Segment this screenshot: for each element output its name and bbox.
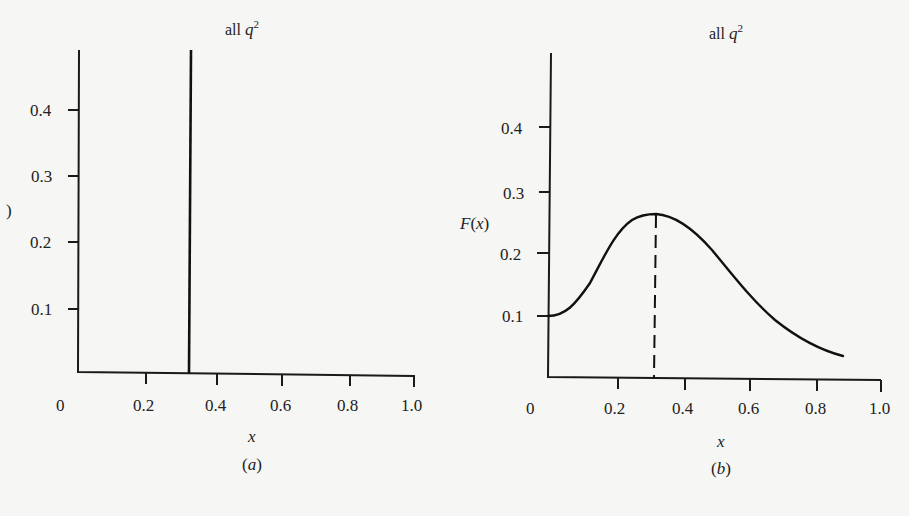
svg-text:0.1: 0.1 <box>31 300 52 319</box>
chart-b-curve <box>548 214 843 356</box>
chart-a-xlabel: x <box>247 427 256 446</box>
chart-b-x-tick-labels: 0 0.2 0.4 0.6 0.8 1.0 <box>526 399 890 418</box>
chart-panel-a: all q2 0.4 0.3 0.2 0.1 ) 0 0.2 0. <box>6 18 422 474</box>
svg-text:0.2: 0.2 <box>500 245 521 264</box>
chart-b-ylabel: F(x) <box>459 214 489 233</box>
svg-text:0: 0 <box>56 396 65 415</box>
chart-b-y-tick-labels: 0.4 0.3 0.2 0.1 <box>500 119 524 326</box>
svg-text:0.6: 0.6 <box>738 399 759 418</box>
svg-text:0.2: 0.2 <box>133 396 154 415</box>
svg-text:0.4: 0.4 <box>672 399 694 418</box>
chart-a-axes <box>78 50 414 376</box>
chart-b-caption: (b) <box>711 459 731 478</box>
svg-text:0.2: 0.2 <box>604 399 625 418</box>
chart-b-peak-dashed-line <box>654 215 656 378</box>
chart-a-delta-line <box>189 50 191 373</box>
chart-b-axes <box>548 53 881 380</box>
svg-text:1.0: 1.0 <box>869 399 890 418</box>
svg-text:1.0: 1.0 <box>401 396 422 415</box>
figure: all q2 0.4 0.3 0.2 0.1 ) 0 0.2 0. <box>0 0 909 516</box>
svg-text:0.4: 0.4 <box>501 119 523 138</box>
chart-a-y-tick-labels: 0.4 0.3 0.2 0.1 <box>30 101 52 319</box>
chart-a-ylabel-fragment: ) <box>6 201 12 220</box>
chart-b-xlabel: x <box>716 432 725 451</box>
svg-text:0.2: 0.2 <box>30 233 51 252</box>
svg-text:0.6: 0.6 <box>270 396 291 415</box>
svg-text:0.8: 0.8 <box>337 396 358 415</box>
chart-panel-b: all q2 0.4 0.3 0.2 0.1 F(x) 0 0.2 <box>459 22 890 478</box>
chart-a-title: all q2 <box>225 18 259 39</box>
svg-text:0.4: 0.4 <box>30 101 52 120</box>
chart-b-title: all q2 <box>709 22 743 43</box>
svg-text:0.1: 0.1 <box>502 307 523 326</box>
chart-a-x-tick-labels: 0 0.2 0.4 0.6 0.8 1.0 <box>56 396 422 415</box>
svg-text:0.3: 0.3 <box>31 167 52 186</box>
svg-text:0: 0 <box>526 399 535 418</box>
svg-text:0.8: 0.8 <box>805 399 826 418</box>
svg-text:0.4: 0.4 <box>205 396 227 415</box>
svg-text:0.3: 0.3 <box>503 184 524 203</box>
chart-a-caption: (a) <box>242 455 262 474</box>
